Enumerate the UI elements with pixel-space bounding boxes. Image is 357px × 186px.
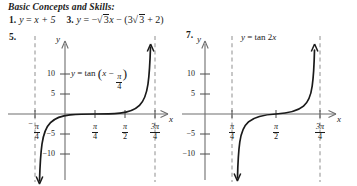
figure-5-x-tick-label-3pi-over-4: 3π4	[144, 119, 166, 142]
f5-xtick0-sign: −	[28, 119, 33, 128]
figure-5-y-tick-label-10: 10	[41, 69, 55, 78]
problem-line: 1. y = x + 5 3. y = −3x − (33 + 2)	[9, 14, 164, 26]
figure-7-y-axis-label: y	[197, 34, 201, 44]
figure-7-y-tick-label-5: 5	[185, 89, 195, 98]
f7-xtick0-fraction: π4	[229, 123, 235, 141]
f5-xtick0-fraction: π4	[34, 123, 40, 141]
figure-5-x-axis-label: x	[169, 114, 173, 124]
section-heading: Basic Concepts and Skills:	[8, 2, 115, 12]
problem-number-1: 1.	[9, 15, 16, 25]
figure-5-x-tick-label-pi-over-2: π2	[116, 119, 134, 142]
problem-number-3: 3.	[66, 15, 73, 25]
f5-xtick3-fraction: 3π4	[150, 123, 160, 141]
f5-xtick3-den: 4	[153, 133, 157, 142]
expr3-radicand-1: 3	[103, 14, 109, 26]
figure-5-x-tick-label-pi-over-4: π4	[86, 119, 104, 142]
f7-xtick2-den: 4	[318, 133, 322, 142]
figure-7-x-tick-label-pi-over-2: π2	[267, 119, 285, 142]
problem-expression-3: y = −3x − (33 + 2)	[77, 14, 164, 26]
f5-arg-fraction: π4	[116, 73, 122, 91]
figure-7-plot	[180, 30, 357, 186]
figure-7-y-tick-label-minus-5: −5	[181, 129, 195, 138]
f5-xtick1-fraction: π4	[92, 123, 98, 141]
f5-close-paren: )	[123, 66, 127, 82]
figure-5-tan-x-minus-pi-over-4: 5.	[0, 30, 180, 186]
f7-xtick1-den: 2	[274, 133, 278, 142]
figure-5-y-axis-label: y	[56, 34, 60, 44]
figure-7-y-tick-label-10: 10	[181, 69, 195, 78]
f5-arg-frac-denominator: 4	[117, 83, 121, 92]
f5-xtick0-den: 4	[35, 133, 39, 142]
f5-xtick2-fraction: π2	[122, 123, 128, 141]
figure-7-x-tick-label-3pi-over-4: 3π4	[309, 119, 331, 142]
figure-7-number: 7.	[186, 30, 193, 40]
radical-sign-icon: 3	[97, 14, 109, 26]
expr1-rhs: x + 5	[34, 14, 55, 25]
figure-5-x-tick-label-minus-pi-over-4: −π4	[21, 119, 47, 142]
expr3-close-paren: )	[160, 14, 163, 25]
f7-xtick0-den: 4	[230, 133, 234, 142]
f5-tan: tan	[85, 68, 96, 78]
figure-5-y-tick-label-5: 5	[45, 89, 55, 98]
figure-7-y-tick-label-minus-10: −10	[176, 149, 195, 158]
figure-5-number: 5.	[9, 32, 16, 42]
problem-expression-1: y = x + 5	[19, 14, 55, 25]
figure-5-function-label: y = tan (x − π4)	[71, 66, 127, 92]
figure-7-tan-2x: 7. y x	[180, 30, 357, 186]
page-root: Basic Concepts and Skills: 1. y = x + 5 …	[0, 0, 357, 186]
f5-xtick2-den: 2	[123, 133, 127, 142]
figure-7-x-axis-label: x	[337, 114, 341, 124]
f7-tan: tan	[255, 32, 266, 42]
figure-5-plot	[0, 30, 180, 186]
f7-arg-var: x	[272, 32, 276, 42]
figure-7-x-tick-label-pi-over-4: π4	[223, 119, 241, 142]
f5-xtick1-den: 4	[93, 133, 97, 142]
figure-7-function-label: y = tan 2x	[241, 32, 276, 42]
f7-xtick2-fraction: 3π4	[315, 123, 325, 141]
figure-5-y-tick-label-minus-10: −10	[36, 149, 55, 158]
radical-sign-icon-2: 3	[133, 14, 145, 26]
expr3-radicand-2: 3	[139, 14, 145, 26]
f7-xtick1-fraction: π2	[273, 123, 279, 141]
